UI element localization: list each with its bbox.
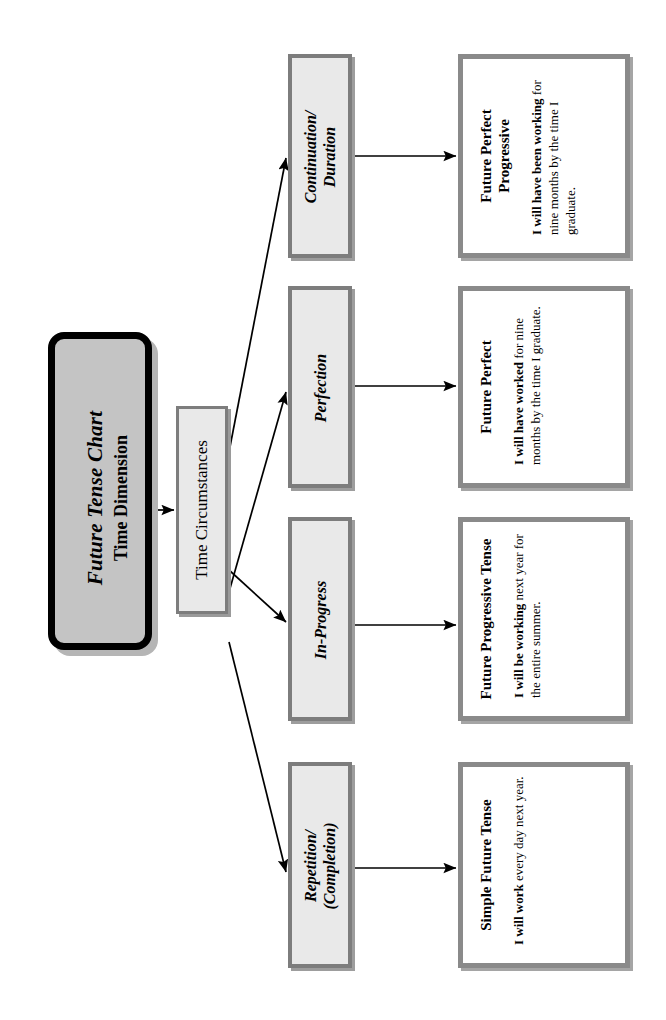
detail-box-simple-future: Simple Future Tense I will work every da… (458, 762, 630, 968)
tense-example: I will have been working for nine months… (529, 67, 580, 245)
detail-box-future-perfect-progressive: Future Perfect Progressive I will have b… (458, 54, 630, 258)
tense-name: Future Progressive Tense (477, 530, 495, 708)
tense-name: Future Perfect Progressive (477, 67, 513, 245)
detail-box-simple-future-inner: Simple Future Tense I will work every da… (463, 767, 625, 963)
tense-example: I will have worked for nine months by th… (511, 299, 545, 475)
category-label: Repetition/ (Completion) (302, 822, 340, 909)
chart-title-box: Future Tense Chart Time Dimension (48, 332, 152, 650)
detail-box-future-progressive-inner: Future Progressive Tense I will be worki… (463, 522, 625, 716)
connector-hub-to-repetition (229, 642, 286, 872)
hub-box-inner: Time Circumstances (179, 409, 225, 611)
category-box-repetition: Repetition/ (Completion) (288, 762, 352, 968)
tense-example-bold: I will be working (511, 604, 526, 698)
tense-example-bold: I will have been working (529, 98, 544, 235)
page-title: Future Tense Chart (83, 411, 108, 585)
detail-box-future-perfect: Future Perfect I will have worked for ni… (458, 286, 630, 488)
tense-example: I will work every day next year. (511, 775, 528, 955)
hub-label: Time Circumstances (192, 440, 212, 580)
diagram-canvas: Future Tense Chart Time Dimension Time C… (0, 0, 666, 1020)
detail-box-future-progressive: Future Progressive Tense I will be worki… (458, 517, 630, 721)
connector-hub-to-continuation (229, 158, 286, 452)
category-label: Continuation/ Duration (302, 111, 340, 204)
category-label: Perfection (312, 354, 331, 422)
detail-box-future-perfect-inner: Future Perfect I will have worked for ni… (463, 291, 625, 483)
tense-name: Future Perfect (477, 299, 495, 475)
chart-title-inner: Future Tense Chart Time Dimension (55, 339, 159, 657)
category-box-repetition-inner: Repetition/ (Completion) (292, 766, 350, 966)
category-box-perfection-inner: Perfection (292, 290, 350, 486)
category-box-continuation: Continuation/ Duration (288, 54, 352, 258)
detail-box-future-perfect-progressive-inner: Future Perfect Progressive I will have b… (463, 59, 625, 253)
connector-hub-to-inprogress (229, 570, 286, 622)
tense-example-rest: every day next year. (511, 776, 526, 884)
category-box-inprogress-inner: In-Progress (292, 521, 350, 719)
category-box-perfection: Perfection (288, 286, 352, 488)
tense-name: Simple Future Tense (477, 775, 495, 955)
connector-hub-to-perfection (229, 392, 286, 592)
category-label: In-Progress (312, 581, 331, 659)
page-subtitle: Time Dimension (111, 435, 132, 561)
tense-example: I will be working next year for the enti… (511, 530, 545, 708)
category-box-inprogress: In-Progress (288, 517, 352, 721)
tense-example-bold: I will work (511, 884, 526, 945)
category-box-continuation-inner: Continuation/ Duration (292, 58, 350, 256)
hub-box-time-circumstances: Time Circumstances (176, 406, 228, 614)
tense-example-bold: I will have worked (511, 362, 526, 465)
